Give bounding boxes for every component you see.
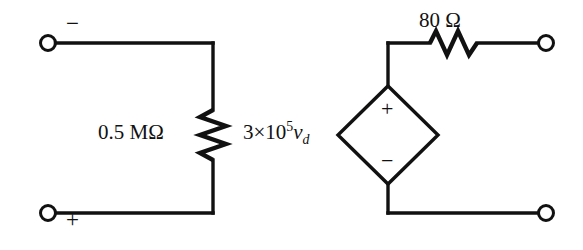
dependent-source-label-base: 10	[265, 120, 286, 144]
dependent-source-minus-sign: −	[381, 150, 393, 172]
dependent-source-label-multiplication-sign: ×	[254, 120, 266, 144]
terminal-bottom-right-node	[539, 206, 554, 221]
terminal-bottom-left-polarity: +	[66, 208, 79, 231]
terminal-bottom-left-node	[41, 206, 56, 221]
dependent-source-label: 3×105vd	[243, 122, 310, 143]
dependent-source-label-variable: v	[293, 120, 302, 144]
output-resistor-label: 80 Ω	[419, 10, 461, 31]
terminal-top-left-node	[41, 36, 56, 51]
input-resistor-label: 0.5 MΩ	[98, 122, 164, 143]
input-resistor-zigzag	[200, 110, 226, 160]
dependent-source-label-coefficient: 3	[243, 120, 254, 144]
dependent-source-plus-sign: +	[381, 98, 393, 120]
terminal-top-left-polarity: −	[66, 12, 79, 35]
output-resistor-zigzag	[430, 31, 477, 55]
terminal-top-right-node	[539, 36, 554, 51]
dependent-source-label-variable-subscript: d	[303, 132, 310, 147]
circuit-diagram: − + + − 0.5 MΩ 80 Ω 3×105vd	[0, 0, 583, 250]
